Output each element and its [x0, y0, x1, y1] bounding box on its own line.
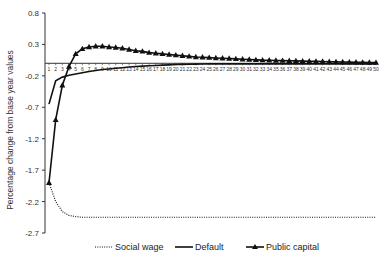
x-tick-label: 27: [220, 66, 226, 72]
x-tick-label: 47: [353, 66, 359, 72]
x-tick-label: 50: [373, 66, 379, 72]
x-tick-label: 49: [367, 66, 373, 72]
x-tick-label: 17: [153, 66, 159, 72]
x-tick-label: 6: [81, 66, 84, 72]
y-tick-label: -1.2: [25, 135, 39, 144]
x-tick-label: 41: [313, 66, 319, 72]
x-tick-label: 37: [286, 66, 292, 72]
x-tick-label: 48: [360, 66, 366, 72]
x-tick-label: 2: [54, 66, 57, 72]
x-tick-label: 30: [240, 66, 246, 72]
x-tick-label: 42: [320, 66, 326, 72]
x-tick-label: 24: [200, 66, 206, 72]
y-tick-label: -0.7: [25, 103, 39, 112]
series-line-social-wage: [49, 183, 376, 218]
x-tick-label: 15: [140, 66, 146, 72]
x-tick-label: 45: [340, 66, 346, 72]
x-tick-label: 46: [347, 66, 353, 72]
data-point-public-capital: [59, 82, 65, 87]
x-tick-label: 19: [166, 66, 172, 72]
x-tick-label: 3: [61, 66, 64, 72]
x-tick-label: 33: [260, 66, 266, 72]
x-tick-label: 22: [186, 66, 192, 72]
x-tick-label: 29: [233, 66, 239, 72]
legend-label: Default: [195, 242, 224, 252]
x-tick-label: 34: [266, 66, 272, 72]
x-tick-label: 20: [173, 66, 179, 72]
y-tick-label: -1.7: [25, 166, 39, 175]
x-tick-label: 36: [280, 66, 286, 72]
x-tick-label: 11: [113, 66, 118, 72]
x-tick-label: 39: [300, 66, 306, 72]
y-ticks: 0.80.3-0.2-0.7-1.2-1.7-2.2-2.7: [25, 9, 45, 238]
x-tick-label: 26: [213, 66, 219, 72]
x-tick-label: 18: [160, 66, 166, 72]
x-tick-label: 21: [180, 66, 186, 72]
x-tick-label: 28: [226, 66, 232, 72]
x-tick-label: 38: [293, 66, 299, 72]
y-tick-label: -2.2: [25, 198, 39, 207]
x-tick-label: 32: [253, 66, 259, 72]
x-tick-label: 43: [327, 66, 333, 72]
data-point-public-capital: [53, 117, 59, 122]
data-point-public-capital: [46, 180, 52, 185]
x-tick-label: 5: [74, 66, 77, 72]
x-tick-label: 16: [146, 66, 152, 72]
legend-label: Social wage: [115, 242, 164, 252]
x-tick-label: 1: [48, 66, 51, 72]
x-tick-label: 40: [306, 66, 312, 72]
x-tick-label: 31: [246, 66, 252, 72]
x-tick-label: 35: [273, 66, 279, 72]
x-tick-label: 23: [193, 66, 199, 72]
y-tick-label: 0.8: [28, 9, 40, 18]
y-tick-label: -0.2: [25, 72, 39, 81]
x-tick-label: 25: [206, 66, 212, 72]
chart: Percentage change from base year values …: [0, 0, 382, 263]
legend-label: Public capital: [266, 242, 319, 252]
x-tick-label: 44: [333, 66, 339, 72]
legend: Social wageDefaultPublic capital: [95, 242, 319, 252]
y-axis-label: Percentage change from base year values: [5, 50, 15, 210]
y-tick-label: -2.7: [25, 229, 39, 238]
y-tick-label: 0.3: [28, 40, 40, 49]
